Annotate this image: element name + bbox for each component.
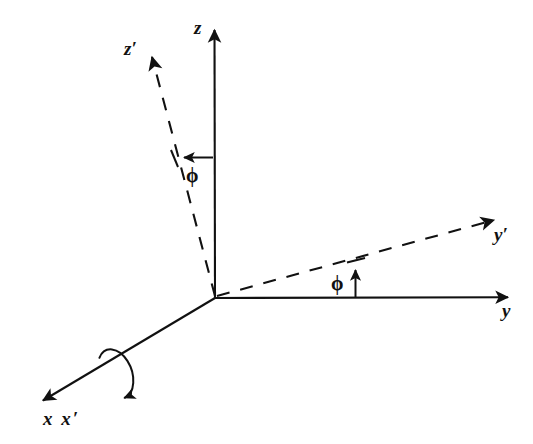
z-axis-label: z — [194, 18, 201, 37]
rotation-ellipse-path — [98, 344, 140, 401]
x-axis-label: x x′ — [43, 409, 80, 428]
phi-y-tick — [347, 258, 365, 263]
solid-axes-group — [43, 30, 508, 401]
phi-angle-label-z: ϕ — [186, 165, 198, 185]
primed-axes-group — [152, 57, 494, 296]
x-axis-line — [43, 298, 215, 401]
y-axis-line — [215, 297, 508, 298]
phi-angle-label-y: ϕ — [331, 273, 343, 293]
y-prime-axis-label: y′ — [494, 225, 508, 244]
phi-marker-y — [347, 258, 365, 297]
y-axis-label: y — [502, 301, 510, 320]
z-prime-axis-line — [152, 57, 215, 296]
z-axis-line — [215, 30, 216, 298]
rotation-diagram-figure: z z′ y′ y x x′ ϕ ϕ — [0, 0, 533, 444]
diagram-canvas — [0, 0, 533, 444]
z-prime-axis-label: z′ — [124, 39, 137, 58]
rotation-about-x-axis-indicator — [98, 344, 140, 401]
